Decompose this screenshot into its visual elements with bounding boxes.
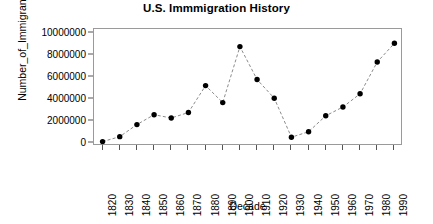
data-point — [289, 135, 294, 140]
data-point — [340, 104, 345, 109]
x-axis-tick-mark — [222, 145, 223, 150]
x-axis-label: Decade — [93, 200, 402, 212]
chart-title: U.S. Immmigration History — [0, 2, 433, 14]
x-axis-tick-mark — [187, 145, 188, 150]
x-axis-tick-labels: 1820183018401850186018701880189019001910… — [93, 152, 402, 196]
x-axis-tick-mark — [325, 145, 326, 150]
x-axis-tick-mark — [102, 145, 103, 150]
x-axis-tick-mark — [239, 145, 240, 150]
data-point — [134, 122, 139, 127]
data-point — [203, 83, 208, 88]
data-point — [392, 41, 397, 46]
data-point — [237, 44, 242, 49]
data-point — [117, 134, 122, 139]
data-series-plot — [94, 29, 403, 146]
x-axis-tick-mark — [376, 145, 377, 150]
plot-area — [93, 28, 402, 145]
x-axis-tick-mark — [119, 145, 120, 150]
x-axis-tick-mark — [342, 145, 343, 150]
x-axis-tick-mark — [256, 145, 257, 150]
x-axis-tick-mark — [205, 145, 206, 150]
x-axis-tick-mark — [359, 145, 360, 150]
data-point — [323, 113, 328, 118]
data-point — [306, 129, 311, 134]
data-point — [254, 77, 259, 82]
x-axis-tick-mark — [273, 145, 274, 150]
data-point — [375, 59, 380, 64]
data-point — [272, 96, 277, 101]
x-axis-tick-mark — [170, 145, 171, 150]
data-point — [220, 100, 225, 105]
series-line — [103, 43, 395, 141]
x-axis-tick-mark — [153, 145, 154, 150]
x-axis-tick-mark — [290, 145, 291, 150]
data-point — [169, 115, 174, 120]
x-axis-tick-marks — [93, 145, 402, 151]
data-point — [151, 112, 156, 117]
y-axis-tick-marks — [0, 28, 93, 145]
x-axis-tick-mark — [308, 145, 309, 150]
data-point — [100, 139, 105, 144]
x-axis-tick-mark — [393, 145, 394, 150]
data-point — [186, 110, 191, 115]
data-point — [357, 91, 362, 96]
x-axis-tick-mark — [136, 145, 137, 150]
chart-figure: U.S. Immmigration History Number_of_Immi… — [0, 0, 433, 224]
